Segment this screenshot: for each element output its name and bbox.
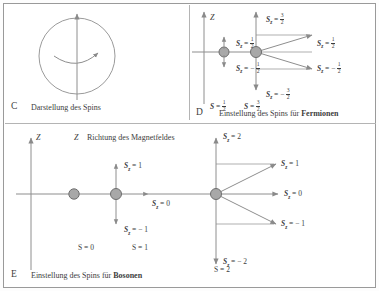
boson-total-spin-2-label: S = 2 — [214, 266, 230, 274]
boson-spin0-node — [69, 189, 79, 199]
fermion-sz-minus-threehalf-label: Sz = − 32 — [266, 88, 290, 101]
boson-total-spin-0-label: S = 0 — [78, 244, 94, 252]
boson-sz-1-fan-label: Sz = 1 — [281, 160, 299, 170]
panel-c-caption: Darstellung des Spins — [31, 104, 101, 112]
panel-e-caption-bold: Bosonen — [113, 271, 142, 280]
fermion-sz-minus-half-label: Sz = − 12 — [236, 62, 260, 75]
fermion-threehalf-diag-down-arrow — [256, 52, 312, 69]
panel-d-caption-text: Einstellung des Spins für — [219, 109, 301, 118]
field-direction-symbol: Z — [74, 134, 78, 142]
boson-sz-minus1-label: Sz = − 1 — [124, 226, 148, 236]
panel-e-graphics — [4, 124, 375, 289]
panel-d-caption-bold: Fermionen — [301, 109, 338, 118]
boson-spin2-diag-up-arrow — [216, 164, 276, 194]
panel-c-letter: C — [11, 102, 17, 112]
spin-figure: C Darstellung des Spins Z Sz = 12 Sz = −… — [0, 0, 379, 291]
boson-sz-0-label: Sz = 0 — [152, 200, 170, 210]
panel-d-caption: Einstellung des Spins für Fermionen — [219, 110, 339, 118]
spin-rotation-arrow — [54, 53, 98, 63]
boson-sz-minus1-fan-label: Sz = − 1 — [281, 220, 305, 230]
fermion-sz-plus-half-label: Sz = 12 — [236, 37, 254, 50]
panel-e-caption: Einstellung des Spins für Bosonen — [31, 272, 142, 280]
fermion-sz-plus-half-fan-label: Sz = 12 — [317, 37, 335, 50]
fermion-sz-minus-half-fan-label: Sz = − 12 — [317, 62, 341, 75]
boson-spin2-diag-down-arrow — [216, 194, 276, 224]
panel-d-letter: D — [196, 108, 203, 118]
boson-z-axis-label: Z — [36, 134, 40, 142]
boson-sz-2-label: Sz = 2 — [223, 133, 241, 143]
fermion-threehalf-diag-up-arrow — [256, 35, 312, 52]
boson-spin1-node — [111, 189, 122, 200]
boson-spin2-node — [211, 189, 222, 200]
field-direction-note: Richtung des Magnetfeldes — [87, 134, 175, 142]
boson-total-spin-1-label: S = 1 — [132, 244, 148, 252]
boson-sz-1-label: Sz = 1 — [124, 162, 142, 172]
fermion-sz-plus-threehalf-label: Sz = 32 — [266, 13, 284, 26]
boson-sz-0-fan-label: Sz = 0 — [284, 190, 302, 200]
figure-frame: C Darstellung des Spins Z Sz = 12 Sz = −… — [3, 3, 376, 288]
fermion-z-axis-label: Z — [210, 14, 214, 22]
panel-e-letter: E — [11, 270, 17, 280]
panel-e-caption-text: Einstellung des Spins für — [31, 271, 113, 280]
